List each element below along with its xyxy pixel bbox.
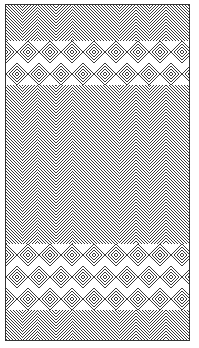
woven-diamond-twill-pattern <box>6 5 190 341</box>
pattern-frame <box>5 4 190 341</box>
